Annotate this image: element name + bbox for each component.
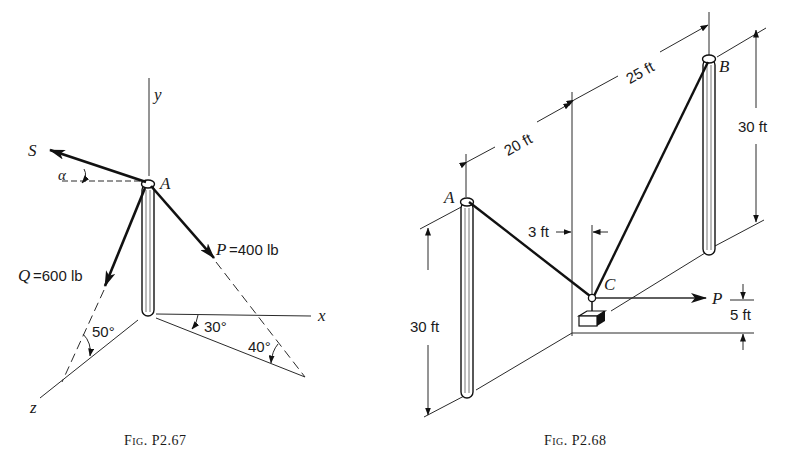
dimension-25ft-line-left: [574, 76, 618, 100]
base-line-b-bottom: [715, 220, 764, 246]
force-p-value: =400 lb: [229, 241, 279, 258]
angle-50-arc: [83, 334, 90, 356]
force-p-symbol: P: [215, 240, 226, 259]
p-horizontal-projection: [156, 318, 305, 377]
z-axis-label: z: [29, 398, 37, 417]
base-line-a-bottom: [424, 395, 466, 417]
ground-line-mid-b: [611, 253, 705, 311]
dimension-3ft-label: 3 ft: [528, 223, 550, 240]
point-c-label: C: [604, 275, 616, 294]
point-a-label: A: [159, 174, 171, 193]
dimension-30ft-right-label: 30 ft: [738, 118, 768, 135]
point-c-ring: [588, 294, 595, 301]
angle-30-arc: [192, 315, 198, 329]
angle-50-label: 50°: [92, 323, 115, 340]
dimension-25ft-label: 25 ft: [623, 57, 657, 86]
force-q-value: =600 lb: [33, 267, 83, 284]
angle-40-label: 40°: [248, 338, 271, 355]
diagram-canvas: y A S α P =400 lb Q =600 lb x: [0, 0, 794, 462]
dimension-20ft-line-left: [467, 147, 495, 162]
figure-caption-p2-68: Fig. P2.68: [544, 433, 607, 448]
block-icon: [579, 302, 605, 326]
z-axis-line: [40, 320, 138, 398]
ground-line-a-mid: [476, 333, 572, 390]
base-line-a-top: [420, 205, 465, 229]
figure-p2-68: 20 ft 25 ft 3 ft A: [410, 12, 768, 448]
cable-bc: [594, 62, 708, 296]
x-axis-label: x: [317, 306, 326, 325]
angle-40-arc: [271, 344, 278, 363]
angle-30-label: 30°: [204, 318, 227, 335]
x-axis-line: [156, 314, 311, 316]
figure-p2-67: y A S α P =400 lb Q =600 lb x: [18, 78, 326, 448]
dimension-20ft-line-right: [537, 103, 571, 122]
dimension-30ft-left-label: 30 ft: [410, 318, 440, 335]
figure-caption-p2-67: Fig. P2.67: [124, 433, 187, 448]
point-b-label: B: [719, 57, 730, 76]
force-q-symbol: Q: [18, 266, 30, 285]
pole-icon: [142, 180, 155, 316]
pole-b-icon: [703, 55, 716, 255]
force-p-arrow: [151, 186, 214, 258]
y-axis-label: y: [152, 85, 162, 104]
dimension-5ft-label: 5 ft: [730, 306, 752, 323]
base-line-b-top: [717, 28, 766, 57]
dimension-25ft-line-right: [660, 25, 708, 52]
point-a-label: A: [443, 188, 455, 207]
force-p-label: P: [711, 289, 722, 308]
force-s-label: S: [28, 141, 37, 160]
pole-a-icon: [461, 198, 474, 398]
dimension-20ft-label: 20 ft: [501, 129, 535, 158]
alpha-label: α: [58, 167, 67, 183]
force-q-arrow: [105, 188, 145, 286]
diagram-page: y A S α P =400 lb Q =600 lb x: [0, 0, 794, 462]
